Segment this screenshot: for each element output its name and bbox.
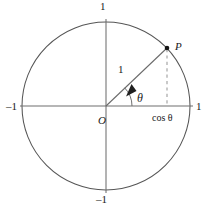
x-axis-left-label: –1 [6, 101, 17, 112]
origin-label: O [98, 115, 106, 126]
y-axis-top-label: 1 [100, 1, 106, 12]
point-p-label: P [175, 41, 182, 52]
point-dot-icon [165, 46, 170, 51]
cosine-theta-label: cos θ [152, 113, 173, 123]
angle-theta-label: θ [137, 92, 143, 104]
y-axis-bottom-label: –1 [96, 194, 107, 205]
diagram-canvas [0, 0, 211, 212]
unit-circle-diagram: 1 –1 –1 1 O P 1 θ cos θ [0, 0, 211, 212]
x-axis-right-label: 1 [196, 101, 202, 112]
radius-length-label: 1 [118, 64, 124, 75]
